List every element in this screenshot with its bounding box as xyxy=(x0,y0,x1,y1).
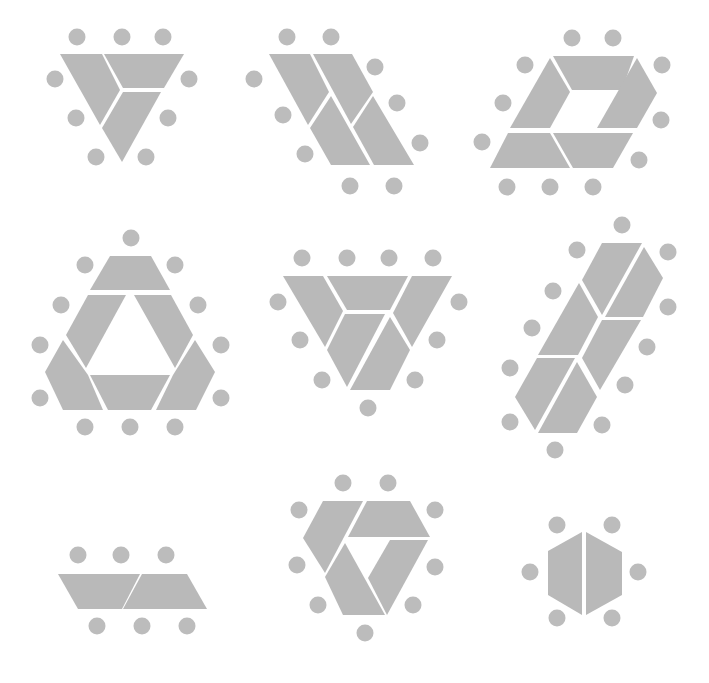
figure-9-split-hexagon-2-pieces xyxy=(522,517,647,627)
dot-marker xyxy=(32,390,49,407)
dot-marker xyxy=(405,597,422,614)
dot-marker xyxy=(653,112,670,129)
shape-piece xyxy=(348,501,430,537)
dot-marker xyxy=(549,517,566,534)
dot-marker xyxy=(429,332,446,349)
dot-marker xyxy=(386,178,403,195)
dot-marker xyxy=(213,390,230,407)
dot-marker xyxy=(339,250,356,267)
dot-marker xyxy=(502,414,519,431)
dot-marker xyxy=(547,442,564,459)
dot-marker xyxy=(517,57,534,74)
dot-marker xyxy=(294,250,311,267)
dot-marker xyxy=(289,557,306,574)
dot-marker xyxy=(604,610,621,627)
dot-marker xyxy=(407,372,424,389)
dot-marker xyxy=(138,149,155,166)
dot-marker xyxy=(314,372,331,389)
figure-4-triangle-ring-6-pieces xyxy=(32,230,230,436)
dot-marker xyxy=(342,178,359,195)
dot-marker xyxy=(631,152,648,169)
dot-marker xyxy=(89,618,106,635)
dot-marker xyxy=(77,419,94,436)
diagram-canvas xyxy=(0,0,709,683)
dot-marker xyxy=(88,149,105,166)
dot-marker xyxy=(47,71,64,88)
dot-marker xyxy=(179,618,196,635)
dot-marker xyxy=(585,179,602,196)
shape-piece xyxy=(90,256,170,290)
dot-marker xyxy=(630,564,647,581)
dot-marker xyxy=(660,244,677,261)
dot-marker xyxy=(213,337,230,354)
figure-3-hexagonal-ring-5-pieces xyxy=(474,30,671,196)
dot-marker xyxy=(367,59,384,76)
dot-marker xyxy=(425,250,442,267)
dot-marker xyxy=(77,257,94,274)
dot-marker xyxy=(68,110,85,127)
dot-marker xyxy=(167,419,184,436)
dot-marker xyxy=(360,400,377,417)
dot-marker xyxy=(389,95,406,112)
dot-marker xyxy=(545,283,562,300)
dot-marker xyxy=(451,294,468,311)
dot-marker xyxy=(660,299,677,316)
dot-marker xyxy=(122,419,139,436)
dot-marker xyxy=(499,179,516,196)
dot-marker xyxy=(639,339,656,356)
dot-marker xyxy=(297,146,314,163)
figure-8-pinwheel-4-pieces xyxy=(289,475,444,642)
dot-marker xyxy=(114,29,131,46)
dot-marker xyxy=(275,107,292,124)
dot-marker xyxy=(594,417,611,434)
dot-marker xyxy=(357,625,374,642)
shape-piece xyxy=(90,375,170,410)
dot-marker xyxy=(292,332,309,349)
dot-marker xyxy=(134,618,151,635)
dot-marker xyxy=(70,547,87,564)
dot-marker xyxy=(605,30,622,47)
dot-marker xyxy=(654,57,671,74)
dot-marker xyxy=(113,547,130,564)
dot-marker xyxy=(427,502,444,519)
dot-marker xyxy=(604,517,621,534)
dot-marker xyxy=(123,230,140,247)
dot-marker xyxy=(614,217,631,234)
dot-marker xyxy=(181,71,198,88)
dot-marker xyxy=(310,597,327,614)
dot-marker xyxy=(270,294,287,311)
dot-marker xyxy=(427,559,444,576)
dot-marker xyxy=(279,29,296,46)
dot-marker xyxy=(291,502,308,519)
dot-marker xyxy=(564,30,581,47)
dot-marker xyxy=(474,134,491,151)
shape-piece xyxy=(586,532,622,615)
shape-piece xyxy=(134,295,193,368)
dot-marker xyxy=(155,29,172,46)
dot-marker xyxy=(158,547,175,564)
figure-7-two-trapezoids xyxy=(58,547,207,635)
figure-6-slanted-bar-6-pieces xyxy=(502,217,677,459)
dot-marker xyxy=(495,95,512,112)
dot-marker xyxy=(542,179,559,196)
dot-marker xyxy=(569,242,586,259)
dot-marker xyxy=(53,297,70,314)
dot-marker xyxy=(190,297,207,314)
dot-marker xyxy=(380,475,397,492)
dot-marker xyxy=(549,610,566,627)
dot-marker xyxy=(522,564,539,581)
dot-marker xyxy=(617,377,634,394)
dot-marker xyxy=(335,475,352,492)
dot-marker xyxy=(69,29,86,46)
dot-marker xyxy=(323,29,340,46)
figure-2-parallelogram-4-pieces xyxy=(246,29,429,195)
dot-marker xyxy=(381,250,398,267)
figure-5-inverted-trapezoid-5-pieces xyxy=(270,250,468,417)
dot-marker xyxy=(246,71,263,88)
dot-marker xyxy=(160,110,177,127)
dot-marker xyxy=(412,135,429,152)
dot-marker xyxy=(502,360,519,377)
shape-piece xyxy=(548,532,582,615)
dot-marker xyxy=(524,320,541,337)
dot-marker xyxy=(167,257,184,274)
